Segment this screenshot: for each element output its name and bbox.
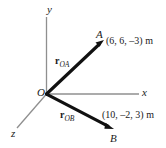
figure-canvas xyxy=(0,0,166,148)
vector-rob-subscript: OB xyxy=(64,114,74,123)
x-axis-label: x xyxy=(142,87,147,98)
point-b-coordinates: (10, –2, 3) m xyxy=(102,110,154,120)
vector-roa-label: rOA xyxy=(55,56,69,69)
position-vector-figure: y x z O A B (6, 6, –3) m (10, –2, 3) m r… xyxy=(0,0,166,148)
point-b-label: B xyxy=(110,133,117,144)
point-a-label: A xyxy=(96,29,103,40)
y-axis-label: y xyxy=(47,4,52,15)
origin-label: O xyxy=(37,87,45,98)
z-axis-label: z xyxy=(11,128,15,139)
vector-rob-label: rOB xyxy=(60,110,74,123)
vector-roa-subscript: OA xyxy=(59,60,69,69)
point-a-coordinates: (6, 6, –3) m xyxy=(106,36,153,46)
z-axis-line xyxy=(17,94,47,128)
